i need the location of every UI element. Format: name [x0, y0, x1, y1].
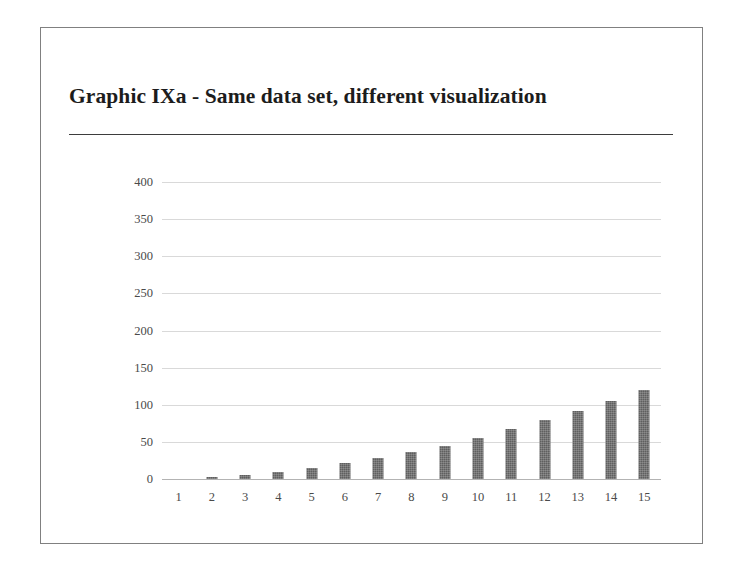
- bar: [406, 452, 417, 479]
- x-axis-tick-label: 15: [638, 490, 651, 505]
- x-axis-tick-label: 6: [342, 490, 348, 505]
- x-axis-tick-label: 4: [275, 490, 281, 505]
- bar-slot: 11: [495, 182, 528, 479]
- bar: [306, 468, 317, 479]
- bar: [339, 463, 350, 479]
- x-axis-tick-label: 1: [176, 490, 182, 505]
- plot-area: 050100150200250300350400 123456789101112…: [162, 182, 661, 479]
- bar-slot: 12: [528, 182, 561, 479]
- bar: [473, 438, 484, 479]
- y-axis-tick-label: 100: [134, 397, 153, 412]
- bar-slot: 2: [195, 182, 228, 479]
- bar: [572, 411, 583, 479]
- x-axis-tick-label: 13: [572, 490, 585, 505]
- title-divider: [69, 134, 673, 135]
- bar-slot: 15: [628, 182, 661, 479]
- bar-slot: 1: [162, 182, 195, 479]
- x-axis-tick-label: 7: [375, 490, 381, 505]
- bar-slot: 9: [428, 182, 461, 479]
- x-axis-tick-label: 9: [442, 490, 448, 505]
- page-title: Graphic IXa - Same data set, different v…: [69, 84, 547, 109]
- x-axis-tick-label: 3: [242, 490, 248, 505]
- bar-slot: 4: [262, 182, 295, 479]
- screenshot-canvas: Graphic IXa - Same data set, different v…: [0, 0, 752, 582]
- y-axis-tick-label: 400: [134, 175, 153, 190]
- y-axis-tick-label: 200: [134, 323, 153, 338]
- bars-group: 123456789101112131415: [162, 182, 661, 479]
- bar-slot: 13: [561, 182, 594, 479]
- y-axis-tick-label: 300: [134, 249, 153, 264]
- bar: [439, 446, 450, 479]
- bar-slot: 6: [328, 182, 361, 479]
- y-axis-tick-label: 0: [147, 472, 153, 487]
- x-axis-tick-label: 11: [505, 490, 517, 505]
- bar-slot: 5: [295, 182, 328, 479]
- bar: [606, 401, 617, 479]
- x-axis-tick-label: 14: [605, 490, 618, 505]
- bar-slot: 10: [461, 182, 494, 479]
- slide-frame: Graphic IXa - Same data set, different v…: [40, 27, 703, 544]
- x-axis-tick-label: 10: [472, 490, 485, 505]
- y-axis-tick-label: 350: [134, 212, 153, 227]
- bar-slot: 14: [594, 182, 627, 479]
- bar: [373, 458, 384, 479]
- bar: [240, 475, 251, 479]
- x-axis-tick-label: 2: [209, 490, 215, 505]
- x-axis-tick-label: 12: [538, 490, 551, 505]
- x-axis-tick-label: 8: [408, 490, 414, 505]
- bar-chart: 050100150200250300350400 123456789101112…: [69, 158, 679, 518]
- bar-slot: 7: [362, 182, 395, 479]
- bar: [206, 477, 217, 479]
- x-axis-tick-label: 5: [309, 490, 315, 505]
- bar: [639, 390, 650, 479]
- bar: [506, 429, 517, 479]
- axis-baseline: 0: [162, 479, 661, 480]
- y-axis-tick-label: 50: [141, 434, 154, 449]
- bar: [273, 472, 284, 479]
- bar: [539, 420, 550, 479]
- y-axis-tick-label: 250: [134, 286, 153, 301]
- bar-slot: 8: [395, 182, 428, 479]
- y-axis-tick-label: 150: [134, 360, 153, 375]
- bar-slot: 3: [229, 182, 262, 479]
